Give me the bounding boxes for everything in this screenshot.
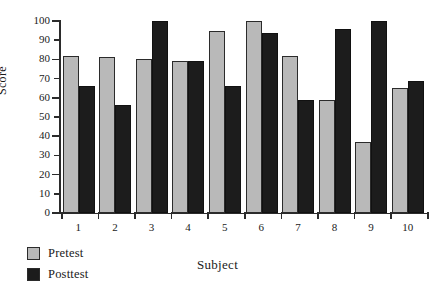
y-tick-label-50: 50 — [16, 111, 50, 122]
bar-posttest-subject-1 — [79, 86, 95, 213]
x-tick-label-4: 4 — [176, 221, 200, 233]
chart-legend: Pretest Posttest — [27, 243, 89, 285]
x-tick-2 — [98, 212, 100, 219]
legend-item-pretest: Pretest — [27, 243, 89, 264]
legend-label-pretest: Pretest — [48, 247, 83, 260]
plot-area — [61, 21, 435, 213]
x-tick-end — [427, 212, 429, 219]
x-tick-10 — [390, 212, 392, 219]
x-tick-label-10: 10 — [396, 221, 420, 233]
bar-pretest-subject-3 — [136, 59, 152, 213]
y-tick-label-80: 80 — [16, 53, 50, 64]
bar-pretest-subject-9 — [355, 142, 371, 213]
bar-posttest-subject-7 — [298, 100, 314, 213]
x-tick-4 — [171, 212, 173, 219]
y-tick-80 — [52, 59, 61, 61]
y-tick-label-60: 60 — [16, 92, 50, 103]
y-tick-20 — [52, 174, 61, 176]
x-tick-label-2: 2 — [103, 221, 127, 233]
bar-pretest-subject-10 — [392, 88, 408, 213]
x-tick-label-7: 7 — [286, 221, 310, 233]
x-tick-label-1: 1 — [66, 221, 90, 233]
y-tick-label-30: 30 — [16, 149, 50, 160]
legend-item-posttest: Posttest — [27, 264, 89, 285]
bar-posttest-subject-9 — [371, 21, 387, 213]
bar-posttest-subject-3 — [152, 21, 168, 213]
y-tick-label-20: 20 — [16, 169, 50, 180]
y-tick-0 — [52, 212, 61, 214]
bar-pretest-subject-6 — [246, 21, 262, 213]
legend-label-posttest: Posttest — [48, 268, 89, 281]
y-tick-label-0: 0 — [16, 207, 50, 218]
x-tick-label-6: 6 — [249, 221, 273, 233]
bar-pretest-subject-5 — [209, 31, 225, 213]
y-tick-50 — [54, 116, 61, 118]
x-tick-3 — [134, 212, 136, 219]
bar-posttest-subject-2 — [115, 105, 131, 213]
y-tick-10 — [54, 193, 61, 195]
legend-swatch-posttest — [27, 268, 40, 281]
y-tick-label-100: 100 — [16, 15, 50, 26]
y-axis-title: Score — [0, 66, 10, 95]
x-tick-label-9: 9 — [359, 221, 383, 233]
x-tick-1 — [61, 212, 63, 219]
bar-pretest-subject-4 — [172, 61, 188, 213]
y-tick-40 — [52, 135, 61, 137]
y-tick-label-40: 40 — [16, 130, 50, 141]
y-tick-90 — [54, 39, 61, 41]
bar-posttest-subject-8 — [335, 29, 351, 213]
bar-pretest-subject-8 — [319, 100, 335, 213]
y-tick-label-90: 90 — [16, 34, 50, 45]
y-tick-70 — [54, 78, 61, 80]
y-tick-30 — [54, 155, 61, 157]
bar-pretest-subject-1 — [63, 56, 79, 213]
y-tick-60 — [52, 97, 61, 99]
bar-pretest-subject-2 — [99, 57, 115, 213]
bar-posttest-subject-5 — [225, 86, 241, 213]
bar-posttest-subject-10 — [408, 81, 424, 213]
y-tick-100 — [52, 20, 61, 22]
x-tick-9 — [354, 212, 356, 219]
x-tick-label-8: 8 — [323, 221, 347, 233]
y-tick-label-10: 10 — [16, 188, 50, 199]
y-tick-label-70: 70 — [16, 73, 50, 84]
bar-chart: Score Subject 0102030405060708090100 123… — [0, 0, 435, 296]
legend-swatch-pretest — [27, 247, 40, 260]
bar-posttest-subject-4 — [188, 61, 204, 213]
x-tick-5 — [207, 212, 209, 219]
bar-pretest-subject-7 — [282, 56, 298, 213]
x-tick-label-3: 3 — [140, 221, 164, 233]
x-tick-6 — [244, 212, 246, 219]
x-tick-8 — [317, 212, 319, 219]
x-tick-label-5: 5 — [213, 221, 237, 233]
x-tick-7 — [281, 212, 283, 219]
bar-posttest-subject-6 — [262, 33, 278, 213]
